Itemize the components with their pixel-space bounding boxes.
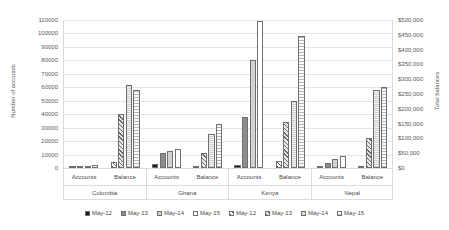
y-axis-right-tick-label: $300,000 xyxy=(398,76,444,82)
group-label-kenya: Kenya xyxy=(228,185,311,200)
legend-item-6-may-13[interactable]: May-13 xyxy=(265,210,292,216)
bar-colombia-balance-may-14 xyxy=(126,85,132,168)
gridline xyxy=(64,87,392,88)
category-label-accounts: Accounts xyxy=(311,168,352,185)
gridline xyxy=(64,101,392,102)
bar-nepal-balance-may-15 xyxy=(381,87,387,168)
bar-kenya-balance-may-12 xyxy=(276,161,282,168)
category-label-balance: Balance xyxy=(269,168,310,185)
y-axis-left-tick-label: 110000 xyxy=(18,17,58,23)
y-axis-right-tick-label: $500,000 xyxy=(398,17,444,23)
chart-container: Number of accounts Total balances 010000… xyxy=(0,0,449,230)
y-axis-right-tick-label: $200,000 xyxy=(398,106,444,112)
legend-swatch-icon xyxy=(157,211,162,216)
legend-swatch-icon xyxy=(85,211,90,216)
legend-swatch-icon xyxy=(121,211,126,216)
category-axis-labels: AccountsBalanceAccountsBalanceAccountsBa… xyxy=(63,168,393,185)
category-label-accounts: Accounts xyxy=(228,168,269,185)
bar-kenya-balance-may-13 xyxy=(283,122,289,168)
y-axis-left-tick-label: 0 xyxy=(18,165,58,171)
bar-nepal-accounts-may-15 xyxy=(340,156,346,168)
group-label-colombia: Colombia xyxy=(63,185,146,200)
y-axis-left-tick-label: 20000 xyxy=(18,138,58,144)
legend-swatch-icon xyxy=(193,211,198,216)
legend-label: May-15 xyxy=(200,210,220,216)
y-axis-right-tick-label: $0 xyxy=(398,165,444,171)
gridline xyxy=(64,114,392,115)
bar-kenya-accounts-may-13 xyxy=(242,117,248,168)
category-label-accounts: Accounts xyxy=(146,168,187,185)
legend-label: May-14 xyxy=(308,210,328,216)
y-axis-left-tick-label: 50000 xyxy=(18,98,58,104)
gridline xyxy=(64,47,392,48)
y-axis-right-tick-label: $450,000 xyxy=(398,32,444,38)
y-axis-left-tick-label: 70000 xyxy=(18,71,58,77)
bar-nepal-accounts-may-14 xyxy=(332,159,338,168)
bar-colombia-balance-may-13 xyxy=(118,114,124,168)
legend-item-5-may-12[interactable]: May-12 xyxy=(229,210,256,216)
gridline xyxy=(64,20,392,21)
legend-item-8-may-15[interactable]: May-15 xyxy=(337,210,364,216)
legend-item-4-may-15[interactable]: May-15 xyxy=(193,210,220,216)
y-axis-left-tick-label: 60000 xyxy=(18,84,58,90)
legend-label: May-15 xyxy=(344,210,364,216)
gridline xyxy=(64,141,392,142)
bar-ghana-balance-may-14 xyxy=(208,134,214,168)
bar-ghana-accounts-may-13 xyxy=(160,153,166,168)
y-axis-left-tick-label: 80000 xyxy=(18,57,58,63)
y-axis-left-tick-label: 100000 xyxy=(18,30,58,36)
y-axis-right-tick-label: $100,000 xyxy=(398,135,444,141)
legend-label: May-14 xyxy=(164,210,184,216)
bar-kenya-accounts-may-14 xyxy=(250,60,256,168)
y-axis-right-tick-label: $50,000 xyxy=(398,150,444,156)
y-axis-right-tick-label: $400,000 xyxy=(398,47,444,53)
legend-swatch-icon xyxy=(337,211,342,216)
y-axis-right-tick-label: $150,000 xyxy=(398,121,444,127)
y-axis-left-tick-label: 10000 xyxy=(18,152,58,158)
bar-ghana-accounts-may-15 xyxy=(175,149,181,168)
bar-ghana-balance-may-13 xyxy=(201,153,207,168)
legend-item-2-may-13[interactable]: May-13 xyxy=(121,210,148,216)
group-label-ghana: Ghana xyxy=(146,185,229,200)
bar-nepal-balance-may-14 xyxy=(373,90,379,168)
y-axis-left-tick-label: 40000 xyxy=(18,111,58,117)
gridline xyxy=(64,74,392,75)
bar-nepal-balance-may-13 xyxy=(366,138,372,168)
bar-kenya-balance-may-15 xyxy=(298,36,304,168)
bar-kenya-balance-may-14 xyxy=(291,101,297,168)
gridline xyxy=(64,33,392,34)
y-axis-left-title: Number of accounts xyxy=(10,56,16,126)
legend-swatch-icon xyxy=(265,211,270,216)
y-axis-left-tick-label: 30000 xyxy=(18,125,58,131)
bar-colombia-balance-may-15 xyxy=(133,90,139,168)
plot-area xyxy=(63,20,393,168)
chart-legend: May-12May-13May-14May-15May-12May-13May-… xyxy=(0,206,449,220)
legend-label: May-12 xyxy=(236,210,256,216)
legend-swatch-icon xyxy=(229,211,234,216)
bar-kenya-accounts-may-15 xyxy=(257,21,263,168)
y-axis-right-tick-label: $350,000 xyxy=(398,61,444,67)
category-label-balance: Balance xyxy=(352,168,393,185)
category-label-accounts: Accounts xyxy=(63,168,104,185)
legend-item-7-may-14[interactable]: May-14 xyxy=(301,210,328,216)
legend-label: May-12 xyxy=(92,210,112,216)
bar-ghana-balance-may-15 xyxy=(216,124,222,168)
legend-label: May-13 xyxy=(128,210,148,216)
y-axis-left-tick-label: 90000 xyxy=(18,44,58,50)
group-axis-labels: ColombiaGhanaKenyaNepal xyxy=(63,185,393,200)
legend-item-1-may-12[interactable]: May-12 xyxy=(85,210,112,216)
category-label-balance: Balance xyxy=(104,168,145,185)
category-label-balance: Balance xyxy=(187,168,228,185)
legend-item-3-may-14[interactable]: May-14 xyxy=(157,210,184,216)
bar-ghana-accounts-may-14 xyxy=(167,151,173,168)
group-label-nepal: Nepal xyxy=(311,185,394,200)
gridline xyxy=(64,128,392,129)
legend-label: May-13 xyxy=(272,210,292,216)
y-axis-right-tick-label: $250,000 xyxy=(398,91,444,97)
gridline xyxy=(64,60,392,61)
legend-swatch-icon xyxy=(301,211,306,216)
